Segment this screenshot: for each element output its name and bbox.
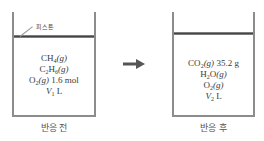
before-bottom-wall [12, 115, 96, 117]
after-contents: CO2(g) 35.2 g H2O(g) O2(g) V2 L [174, 58, 253, 102]
before-label: 반응 전 [12, 121, 96, 134]
after-line-h2o: H2O(g) [174, 69, 253, 80]
after-piston [174, 32, 253, 35]
before-line-volume: V1 L [14, 86, 94, 97]
piston-label: 피스톤 [36, 22, 54, 31]
right-arrow-icon [123, 59, 145, 69]
after-right-wall [253, 12, 255, 117]
before-line-c2h6: C2H6(g) [14, 64, 94, 75]
before-contents: CH4(g) C2H6(g) O2(g) 1.6 mol V1 L [14, 53, 94, 97]
after-label: 반응 후 [172, 121, 255, 134]
before-line-o2: O2(g) 1.6 mol [14, 75, 94, 86]
before-piston [14, 35, 94, 38]
after-line-co2: CO2(g) 35.2 g [174, 58, 253, 69]
before-line-ch4: CH4(g) [14, 53, 94, 64]
after-line-volume: V2 L [174, 91, 253, 102]
after-bottom-wall [172, 115, 255, 117]
before-right-wall [94, 12, 96, 117]
after-line-o2: O2(g) [174, 80, 253, 91]
